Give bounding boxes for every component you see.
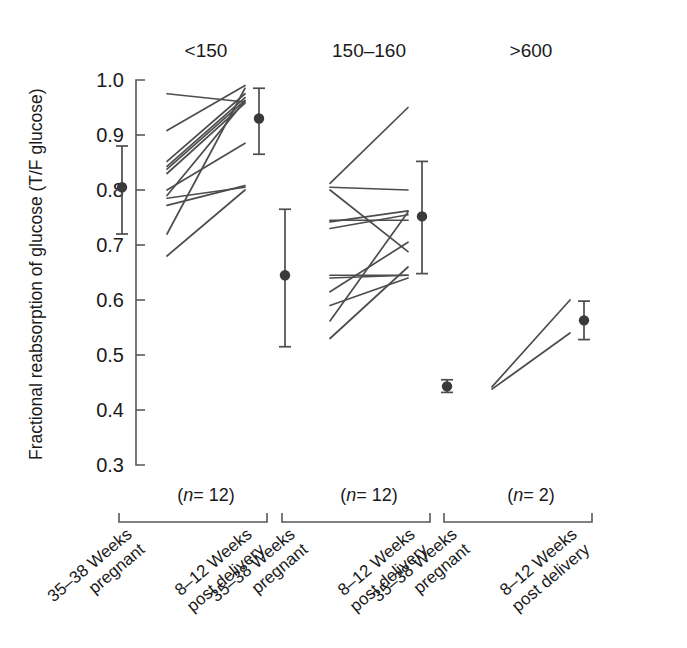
- y-tick-label: 0.6: [96, 289, 124, 311]
- panel-2: 150–160(n= 12): [279, 40, 430, 522]
- subject-line: [330, 278, 408, 306]
- sample-size-label: (n= 2): [507, 485, 555, 505]
- subject-line: [167, 101, 245, 196]
- mean-marker: [116, 146, 128, 234]
- subject-line: [167, 190, 245, 256]
- y-tick-label: 0.3: [96, 454, 124, 476]
- mean-marker: [253, 88, 265, 154]
- mean-dot: [442, 381, 452, 391]
- subject-line: [167, 186, 245, 206]
- subject-line: [167, 94, 245, 102]
- mean-marker: [279, 209, 291, 347]
- figure-root: Fractional reabsorption of glucose (T/F …: [0, 0, 687, 648]
- category-label-text: 8–12 Weekspost delivery: [495, 524, 594, 616]
- panel-1: <150(n= 12): [116, 40, 267, 522]
- panel-bracket: [119, 513, 267, 522]
- subject-line: [492, 300, 570, 387]
- category-label-1: 35–38 Weekspregnant: [44, 524, 149, 621]
- y-axis-line: [136, 80, 145, 465]
- y-axis: 0.30.40.50.60.70.80.91.0: [96, 69, 145, 476]
- paired-line-chart: Fractional reabsorption of glucose (T/F …: [0, 0, 687, 648]
- category-labels-group: 35–38 Weekspregnant8–12 Weekspost delive…: [44, 524, 594, 621]
- panel-3: >600(n= 2): [441, 40, 592, 522]
- n-label-symbol: n: [346, 485, 356, 505]
- panel-header: >600: [510, 40, 553, 61]
- y-tick-label: 0.5: [96, 344, 124, 366]
- mean-dot: [280, 270, 290, 280]
- mean-marker: [578, 301, 590, 340]
- subject-line: [492, 333, 570, 389]
- subject-line: [167, 103, 245, 173]
- y-tick-label: 0.4: [96, 399, 124, 421]
- mean-dot: [254, 113, 264, 123]
- panel-header: <150: [185, 40, 228, 61]
- mean-dot: [579, 315, 589, 325]
- panels-group: <150(n= 12)150–160(n= 12)>600(n= 2): [116, 40, 592, 522]
- subject-line: [167, 88, 245, 234]
- category-label-text: 35–38 Weekspregnant: [44, 524, 149, 621]
- subject-line: [330, 187, 408, 190]
- panel-bracket: [444, 513, 592, 522]
- panel-bracket: [282, 513, 430, 522]
- subject-line: [330, 212, 408, 321]
- category-label-2: 8–12 Weekspost delivery: [495, 524, 594, 616]
- y-tick-label: 1.0: [96, 69, 124, 91]
- mean-dot: [417, 211, 427, 221]
- mean-marker: [441, 380, 453, 393]
- y-tick-label: 0.9: [96, 124, 124, 146]
- sample-size-label: (n= 12): [177, 485, 235, 505]
- mean-marker: [416, 161, 428, 273]
- n-label-suffix: = 12): [356, 485, 398, 505]
- y-axis-title-group: Fractional reabsorption of glucose (T/F …: [26, 88, 46, 460]
- sample-size-label: (n= 12): [340, 485, 398, 505]
- n-label-suffix: = 12): [193, 485, 235, 505]
- n-label-symbol: n: [183, 485, 193, 505]
- n-label-suffix: = 2): [523, 485, 555, 505]
- subject-line: [330, 108, 408, 184]
- n-label-symbol: n: [513, 485, 523, 505]
- panel-header: 150–160: [332, 40, 406, 61]
- y-tick-label: 0.7: [96, 234, 124, 256]
- y-axis-title: Fractional reabsorption of glucose (T/F …: [26, 88, 46, 460]
- mean-dot: [117, 182, 127, 192]
